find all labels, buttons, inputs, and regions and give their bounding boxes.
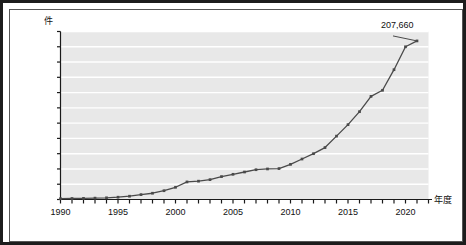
x-axis-tick-label: 1995	[108, 208, 128, 217]
final-value-annotation: 207,660	[381, 21, 414, 30]
y-axis-unit-label: 件	[44, 17, 53, 26]
x-axis-tick-labels: 1990199520002005201020152020	[0, 0, 466, 245]
x-axis-tick-label: 2000	[165, 208, 185, 217]
x-axis-tick-label: 2020	[395, 208, 415, 217]
x-axis-tick-label: 2010	[280, 208, 300, 217]
x-axis-tick-label: 2005	[223, 208, 243, 217]
x-axis-tick-label: 1990	[50, 208, 70, 217]
x-axis-tick-label: 2015	[338, 208, 358, 217]
x-axis-unit-label: 年度	[434, 196, 452, 205]
